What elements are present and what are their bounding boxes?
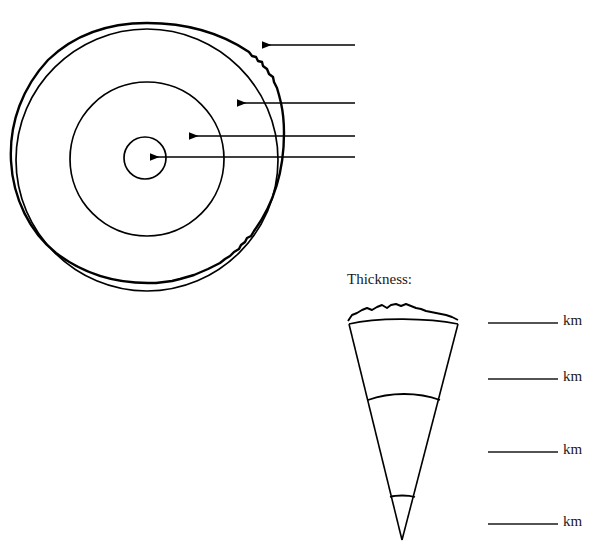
km-unit-label-3: km <box>563 442 582 457</box>
diagram-vector-layer <box>0 0 599 546</box>
thickness-heading: Thickness: <box>347 272 412 287</box>
core-circle <box>124 137 166 179</box>
wedge-right-edge <box>402 324 458 540</box>
worksheet-canvas: Thickness: km km km km <box>0 0 599 546</box>
crust-outer-wavy-path <box>11 23 284 283</box>
callout-arrow-group <box>150 45 355 157</box>
mantle-boundary-circle <box>70 82 224 236</box>
km-unit-label-2: km <box>563 369 582 384</box>
thickness-wedge-diagram <box>348 304 458 540</box>
wedge-mantle-boundary-arc <box>368 394 440 400</box>
answer-blank-lines <box>488 323 558 524</box>
km-unit-label-4: km <box>563 514 582 529</box>
wedge-crust-inner-arc <box>349 319 458 324</box>
wedge-core-boundary-arc <box>390 496 415 498</box>
km-unit-label-1: km <box>563 313 582 328</box>
wedge-left-edge <box>349 324 402 540</box>
